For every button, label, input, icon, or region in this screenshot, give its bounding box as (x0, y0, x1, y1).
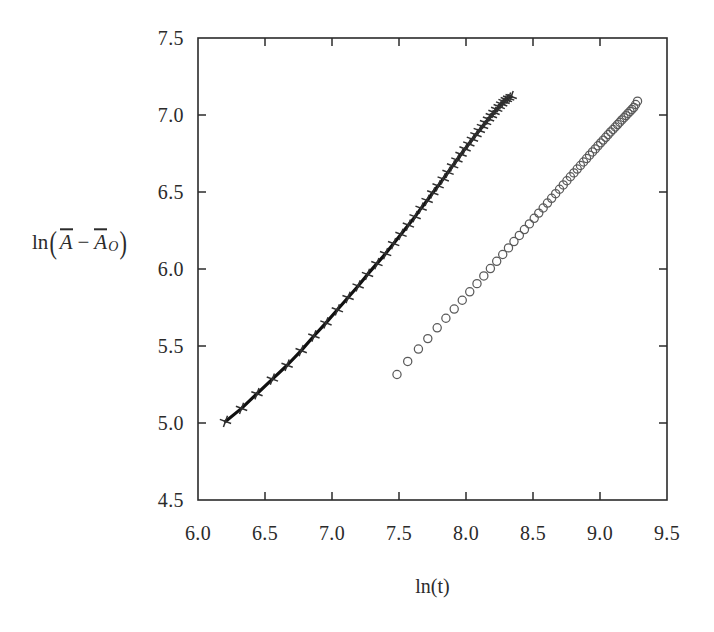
y-tick-label: 5.0 (130, 412, 184, 435)
series-circle-markers (393, 97, 642, 379)
close-paren: ) (120, 230, 127, 255)
x-tick-label: 6.0 (185, 522, 211, 545)
ln-function-text: ln (32, 231, 48, 256)
figure-canvas: 4.55.05.56.06.57.07.5 6.06.57.07.58.08.5… (0, 0, 714, 632)
axis-ticks (198, 38, 667, 500)
x-tick-label: 8.5 (520, 522, 546, 545)
y-axis-title-math: ln ( A − AO ) (32, 230, 129, 255)
y-tick-label: 4.5 (130, 489, 184, 512)
x-tick-label: 9.0 (587, 522, 613, 545)
x-tick-label: 7.0 (319, 522, 345, 545)
x-tick-label: 8.0 (453, 522, 479, 545)
x-tick-label: 9.5 (654, 522, 680, 545)
minus-operator: − (74, 231, 94, 256)
x-axis-title: ln(t) (415, 575, 449, 598)
var-a0-bar: A (93, 231, 108, 256)
x-tick-label: 7.5 (386, 522, 412, 545)
y-axis-title: ln ( A − AO ) (32, 230, 129, 255)
y-tick-label: 5.5 (130, 335, 184, 358)
open-paren: ( (50, 230, 57, 255)
x-tick-label: 6.5 (252, 522, 278, 545)
series-cross-markers (218, 89, 519, 429)
plot-frame (198, 38, 667, 500)
y-tick-label: 7.5 (130, 27, 184, 50)
y-tick-label: 7.0 (130, 104, 184, 127)
var-a0-subscript: O (108, 239, 118, 255)
y-tick-label: 6.5 (130, 181, 184, 204)
y-tick-label: 6.0 (130, 258, 184, 281)
var-a-bar: A (59, 231, 74, 256)
